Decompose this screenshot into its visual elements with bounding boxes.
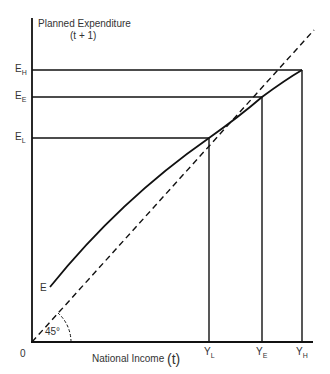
x-axis-title: National Income (t) — [92, 352, 180, 366]
label-yh: YH — [296, 347, 308, 359]
label-ee: EE — [15, 91, 26, 103]
label-ye: YE — [256, 347, 267, 359]
curve-label-e: E — [40, 283, 47, 293]
label-eh: EH — [15, 64, 27, 76]
label-el: EL — [15, 132, 26, 144]
y-axis-subtitle: (t + 1) — [70, 31, 96, 41]
y-axis-title: Planned Expenditure — [38, 19, 131, 29]
expenditure-curve-e — [50, 70, 302, 287]
angle-label: 45° — [45, 327, 60, 337]
origin-label: 0 — [20, 349, 26, 359]
label-yl: YL — [204, 347, 215, 359]
forty-five-degree-line — [32, 30, 314, 342]
diagram-canvas — [0, 0, 330, 374]
